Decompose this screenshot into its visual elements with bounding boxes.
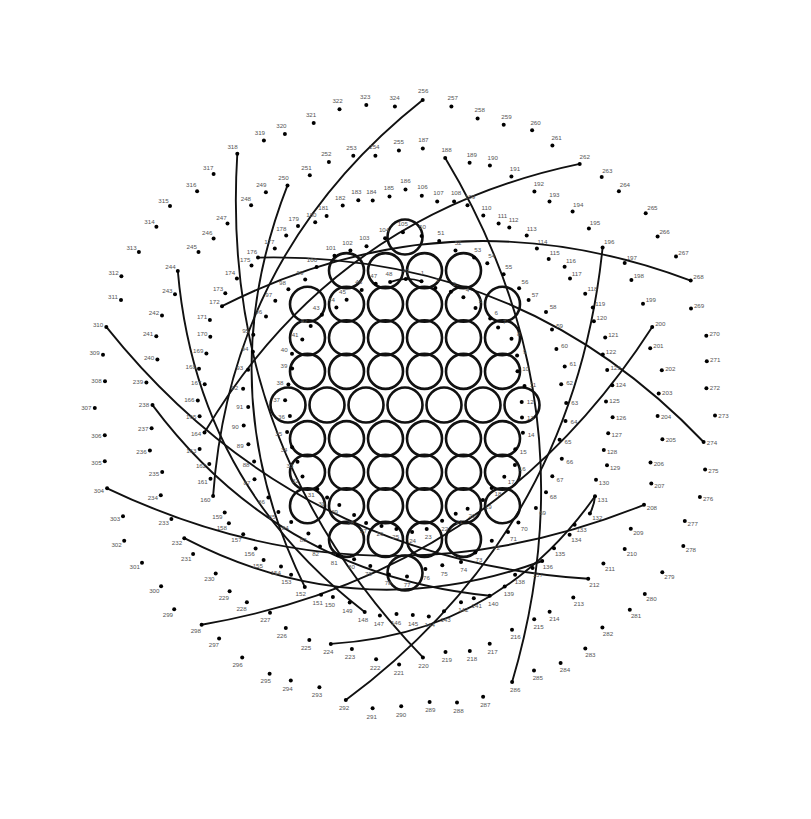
numbered-dot[interactable]: [246, 368, 250, 372]
numbered-dot[interactable]: [649, 482, 653, 486]
numbered-dot[interactable]: [350, 647, 354, 651]
numbered-dot[interactable]: [660, 368, 664, 372]
numbered-dot[interactable]: [660, 437, 664, 441]
numbered-dot[interactable]: [610, 383, 614, 387]
numbered-dot[interactable]: [119, 274, 123, 278]
numbered-dot[interactable]: [523, 384, 527, 388]
numbered-dot[interactable]: [601, 246, 605, 250]
numbered-dot[interactable]: [289, 520, 293, 524]
numbered-dot[interactable]: [488, 642, 492, 646]
numbered-dot[interactable]: [459, 560, 463, 564]
numbered-dot[interactable]: [454, 249, 458, 253]
numbered-dot[interactable]: [452, 200, 456, 204]
numbered-dot[interactable]: [242, 424, 246, 428]
numbered-dot[interactable]: [198, 447, 202, 451]
numbered-dot[interactable]: [606, 431, 610, 435]
numbered-dot[interactable]: [481, 695, 485, 699]
numbered-dot[interactable]: [401, 230, 405, 234]
numbered-dot[interactable]: [657, 392, 661, 396]
numbered-dot[interactable]: [360, 288, 364, 292]
numbered-dot[interactable]: [601, 352, 605, 356]
numbered-dot[interactable]: [348, 249, 352, 253]
numbered-dot[interactable]: [591, 306, 595, 310]
numbered-dot[interactable]: [513, 447, 517, 451]
numbered-dot[interactable]: [568, 277, 572, 281]
numbered-dot[interactable]: [488, 594, 492, 598]
numbered-dot[interactable]: [290, 445, 294, 449]
numbered-dot[interactable]: [325, 214, 329, 218]
numbered-dot[interactable]: [513, 573, 517, 577]
numbered-dot[interactable]: [641, 302, 645, 306]
numbered-dot[interactable]: [521, 431, 525, 435]
numbered-dot[interactable]: [454, 512, 458, 516]
numbered-dot[interactable]: [704, 334, 708, 338]
numbered-dot[interactable]: [364, 521, 368, 525]
numbered-dot[interactable]: [169, 517, 173, 521]
numbered-dot[interactable]: [331, 595, 335, 599]
numbered-dot[interactable]: [160, 313, 164, 317]
numbered-dot[interactable]: [250, 264, 254, 268]
numbered-dot[interactable]: [320, 313, 324, 317]
numbered-dot[interactable]: [496, 325, 500, 329]
numbered-dot[interactable]: [583, 647, 587, 651]
numbered-dot[interactable]: [578, 162, 582, 166]
numbered-dot[interactable]: [283, 132, 287, 136]
numbered-dot[interactable]: [425, 527, 429, 531]
numbered-dot[interactable]: [510, 680, 514, 684]
numbered-dot[interactable]: [296, 460, 300, 464]
numbered-dot[interactable]: [605, 463, 609, 467]
numbered-dot[interactable]: [517, 286, 521, 290]
numbered-dot[interactable]: [534, 506, 538, 510]
numbered-dot[interactable]: [440, 563, 444, 567]
numbered-dot[interactable]: [312, 121, 316, 125]
numbered-dot[interactable]: [356, 198, 360, 202]
numbered-dot[interactable]: [515, 353, 519, 357]
numbered-dot[interactable]: [318, 545, 322, 549]
numbered-dot[interactable]: [683, 519, 687, 523]
numbered-dot[interactable]: [704, 386, 708, 390]
numbered-dot[interactable]: [547, 257, 551, 261]
numbered-dot[interactable]: [532, 669, 536, 673]
numbered-dot[interactable]: [563, 364, 567, 368]
numbered-dot[interactable]: [227, 521, 231, 525]
numbered-dot[interactable]: [368, 564, 372, 568]
numbered-dot[interactable]: [284, 626, 288, 630]
numbered-dot[interactable]: [309, 324, 313, 328]
numbered-dot[interactable]: [532, 617, 536, 621]
numbered-dot[interactable]: [594, 478, 598, 482]
numbered-dot[interactable]: [583, 292, 587, 296]
numbered-dot[interactable]: [284, 234, 288, 238]
numbered-dot[interactable]: [176, 269, 180, 273]
numbered-dot[interactable]: [207, 462, 211, 466]
numbered-dot[interactable]: [159, 584, 163, 588]
numbered-dot[interactable]: [548, 610, 552, 614]
numbered-dot[interactable]: [702, 440, 706, 444]
numbered-dot[interactable]: [502, 123, 506, 127]
numbered-dot[interactable]: [473, 551, 477, 555]
numbered-dot[interactable]: [348, 601, 352, 605]
numbered-dot[interactable]: [558, 438, 562, 442]
numbered-dot[interactable]: [154, 334, 158, 338]
numbered-dot[interactable]: [449, 290, 453, 294]
numbered-dot[interactable]: [140, 561, 144, 565]
numbered-dot[interactable]: [550, 143, 554, 147]
numbered-dot[interactable]: [405, 575, 409, 579]
numbered-dot[interactable]: [208, 335, 212, 339]
numbered-dot[interactable]: [611, 415, 615, 419]
numbered-dot[interactable]: [388, 195, 392, 199]
numbered-dot[interactable]: [592, 319, 596, 323]
numbered-dot[interactable]: [503, 584, 507, 588]
numbered-dot[interactable]: [689, 307, 693, 311]
numbered-dot[interactable]: [144, 381, 148, 385]
numbered-dot[interactable]: [249, 203, 253, 207]
numbered-dot[interactable]: [623, 261, 627, 265]
numbered-dot[interactable]: [337, 503, 341, 507]
numbered-dot[interactable]: [371, 706, 375, 710]
numbered-dot[interactable]: [703, 468, 707, 472]
numbered-dot[interactable]: [160, 470, 164, 474]
numbered-dot[interactable]: [535, 247, 539, 251]
numbered-dot[interactable]: [548, 200, 552, 204]
numbered-dot[interactable]: [490, 539, 494, 543]
numbered-dot[interactable]: [273, 299, 277, 303]
numbered-dot[interactable]: [93, 406, 97, 410]
